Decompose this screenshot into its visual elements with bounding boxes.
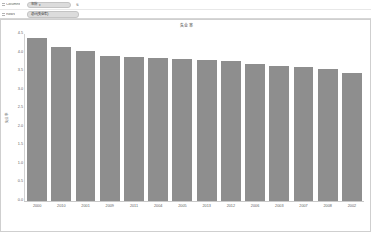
bar[interactable] <box>76 51 96 201</box>
bar-slot[interactable] <box>340 34 364 201</box>
bar[interactable] <box>269 66 289 201</box>
bar[interactable] <box>318 69 338 201</box>
bar-slot[interactable] <box>219 34 243 201</box>
x-tick-label: 2007 <box>291 203 315 215</box>
chevron-down-icon[interactable]: ▾ <box>39 4 41 7</box>
x-tick-label: 2008 <box>316 203 340 215</box>
y-tick-label: 0.0 <box>18 199 23 203</box>
y-axis-title: 失业率 <box>4 113 9 122</box>
chart-canvas: 失业率 失业率 4.54.03.53.02.52.01.51.00.50.0 2… <box>0 19 371 232</box>
bar[interactable] <box>100 56 120 201</box>
bar-slot[interactable] <box>73 34 97 201</box>
x-tick-label: 2006 <box>243 203 267 215</box>
sort-descending-icon[interactable]: ⇅ <box>76 3 79 7</box>
rows-shelf-label: Rows <box>0 13 26 17</box>
bar-slot[interactable] <box>98 34 122 201</box>
bar-slot[interactable] <box>122 34 146 201</box>
y-tick-label: 1.0 <box>18 162 23 166</box>
bar-slot[interactable] <box>316 34 340 201</box>
x-tick-label: 2011 <box>122 203 146 215</box>
bar[interactable] <box>27 38 47 201</box>
rows-drop-zone[interactable]: 总计(失业率) <box>26 11 371 19</box>
y-tick-label: 2.0 <box>18 125 23 129</box>
columns-shelf[interactable]: Columns 年份 ▾ ⇅ <box>0 1 371 10</box>
x-tick-label: 2009 <box>98 203 122 215</box>
x-tick-label: 2013 <box>195 203 219 215</box>
x-tick-label: 2012 <box>219 203 243 215</box>
plot-area <box>25 34 364 201</box>
x-axis-line <box>24 201 364 202</box>
y-tick-label: 4.5 <box>18 32 23 36</box>
x-axis: 2000201020012009201120042005201320122006… <box>25 203 364 215</box>
bar[interactable] <box>172 59 192 201</box>
bar-slot[interactable] <box>49 34 73 201</box>
pill-rows-measure[interactable]: 总计(失业率) <box>27 11 79 18</box>
y-tick-label: 2.5 <box>18 106 23 110</box>
grip-icon <box>2 13 5 17</box>
bar-slot[interactable] <box>291 34 315 201</box>
y-tick-label: 1.5 <box>18 143 23 147</box>
bar[interactable] <box>51 47 71 201</box>
bar[interactable] <box>221 61 241 201</box>
shelf-toolbar: Columns 年份 ▾ ⇅ Rows 总计(失业率) <box>0 0 371 19</box>
bar[interactable] <box>124 57 144 201</box>
y-tick-label: 3.5 <box>18 69 23 73</box>
columns-drop-zone[interactable]: 年份 ▾ ⇅ <box>26 1 371 9</box>
bar[interactable] <box>294 67 314 201</box>
bar-slot[interactable] <box>267 34 291 201</box>
x-tick-label: 2004 <box>146 203 170 215</box>
bar-slot[interactable] <box>243 34 267 201</box>
y-tick-label: 3.0 <box>18 88 23 92</box>
rows-shelf[interactable]: Rows 总计(失业率) <box>0 10 371 19</box>
x-tick-label: 2010 <box>49 203 73 215</box>
bar[interactable] <box>197 60 217 201</box>
bar-slot[interactable] <box>170 34 194 201</box>
y-tick-label: 0.5 <box>18 181 23 185</box>
y-tick-label: 4.0 <box>18 51 23 55</box>
pill-columns-year[interactable]: 年份 ▾ <box>27 2 71 9</box>
bar[interactable] <box>148 58 168 201</box>
tableau-worksheet: Columns 年份 ▾ ⇅ Rows 总计(失业率) <box>0 0 371 232</box>
x-tick-label: 2001 <box>73 203 97 215</box>
y-axis: 失业率 4.54.03.53.02.52.01.51.00.50.0 <box>1 34 25 201</box>
bar-slot[interactable] <box>25 34 49 201</box>
bar[interactable] <box>342 73 362 201</box>
x-tick-label: 2003 <box>267 203 291 215</box>
columns-shelf-label: Columns <box>0 3 26 7</box>
bar-slot[interactable] <box>146 34 170 201</box>
x-tick-label: 2005 <box>170 203 194 215</box>
x-tick-label: 2000 <box>25 203 49 215</box>
bar-series <box>25 34 364 201</box>
bar-slot[interactable] <box>195 34 219 201</box>
grip-icon <box>2 3 5 7</box>
chart-title: 失业率 <box>1 22 371 28</box>
bar[interactable] <box>245 64 265 201</box>
x-tick-label: 2002 <box>340 203 364 215</box>
